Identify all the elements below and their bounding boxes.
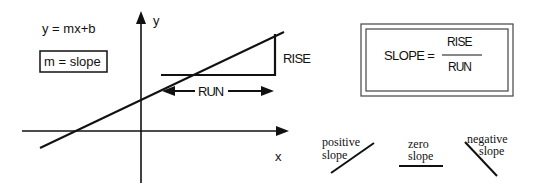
run-arrow-right-icon bbox=[261, 86, 274, 96]
y-axis bbox=[136, 11, 146, 183]
negative-slope-example: negative slope bbox=[465, 132, 508, 176]
y-axis-arrow-icon bbox=[136, 11, 146, 24]
zero-slope-example: zero slope bbox=[399, 137, 443, 166]
rise-label: RISE bbox=[283, 51, 311, 66]
x-axis bbox=[22, 126, 289, 136]
y-axis-label: y bbox=[153, 13, 160, 28]
run-label: RUN bbox=[198, 84, 224, 99]
formula-denominator: RUN bbox=[448, 60, 471, 74]
x-axis-label: x bbox=[275, 149, 282, 164]
positive-slope-example: positive slope bbox=[322, 135, 374, 173]
x-axis-arrow-icon bbox=[276, 126, 289, 136]
negative-slope-label-2: slope bbox=[479, 144, 504, 158]
positive-slope-label-1: positive bbox=[322, 135, 360, 149]
slope-diagram: y = mx+b m = slope y x RISE RUN SLOPE = … bbox=[0, 0, 534, 191]
formula-numerator: RISE bbox=[447, 35, 473, 49]
rise-run-triangle bbox=[161, 34, 276, 76]
zero-slope-label-2: slope bbox=[408, 149, 433, 163]
equation-text: y = mx+b bbox=[42, 21, 95, 36]
formula-lhs: SLOPE = bbox=[384, 48, 434, 63]
m-definition-text: m = slope bbox=[44, 54, 101, 69]
positive-slope-label-2: slope bbox=[322, 148, 347, 162]
